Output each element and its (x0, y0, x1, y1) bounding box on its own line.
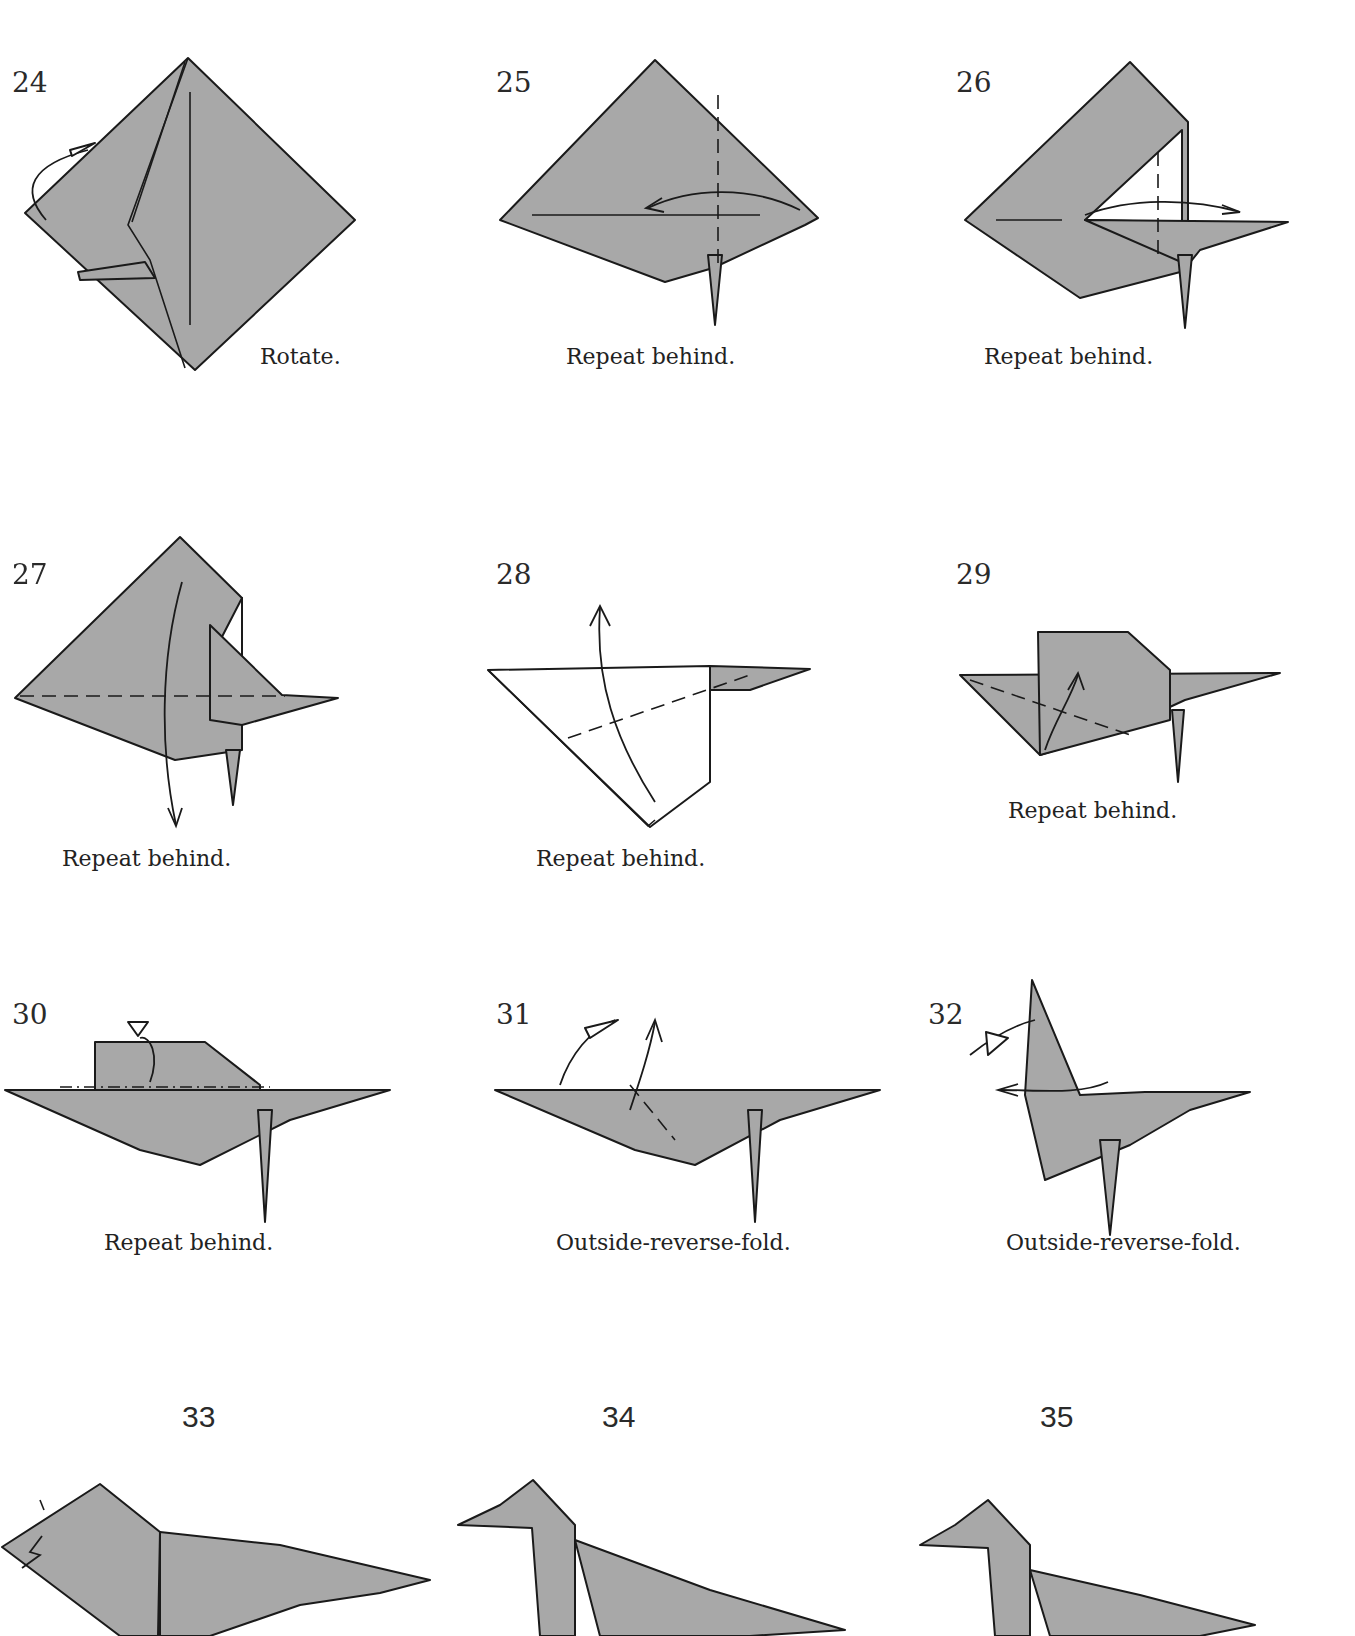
step-24-figure (0, 0, 450, 420)
step-caption: Repeat behind. (62, 846, 231, 871)
step-33-figure (0, 1380, 450, 1636)
step-caption: Repeat behind. (104, 1230, 273, 1255)
step-26: 26 Repeat behind. (900, 0, 1355, 420)
step-number: 30 (12, 998, 48, 1031)
step-caption: Repeat behind. (984, 344, 1153, 369)
step-27-figure (0, 520, 450, 900)
step-28: 28 Repeat behind. (450, 520, 900, 900)
step-29: 29 Repeat behind. (900, 520, 1355, 900)
step-number: 29 (956, 558, 992, 591)
step-30: 30 Repeat behind. (0, 960, 450, 1300)
step-33: 33 (0, 1380, 450, 1636)
step-number: 35 (1040, 1400, 1073, 1434)
step-number: 26 (956, 66, 992, 99)
step-25: 25 Repeat behind. (450, 0, 900, 420)
step-34: 34 (450, 1380, 900, 1636)
step-caption: Repeat behind. (566, 344, 735, 369)
step-number: 27 (12, 558, 48, 591)
step-24: 24 Rotate. (0, 0, 450, 420)
step-caption: Repeat behind. (536, 846, 705, 871)
step-caption: Rotate. (260, 344, 341, 369)
step-caption: Outside-reverse-fold. (1006, 1230, 1241, 1255)
step-number: 25 (496, 66, 532, 99)
step-32: 32 Outside-reverse-fold. (900, 960, 1355, 1300)
step-number: 24 (12, 66, 48, 99)
step-caption: Outside-reverse-fold. (556, 1230, 791, 1255)
step-number: 28 (496, 558, 532, 591)
step-31: 31 Outside-reverse-fold. (450, 960, 900, 1300)
step-number: 32 (928, 998, 964, 1031)
step-35: 35 (900, 1380, 1355, 1636)
step-number: 33 (182, 1400, 215, 1434)
step-27: 27 Repeat behind. (0, 520, 450, 900)
step-number: 31 (496, 998, 532, 1031)
step-35-figure (900, 1380, 1355, 1636)
step-34-figure (450, 1380, 900, 1636)
step-caption: Repeat behind. (1008, 798, 1177, 823)
step-number: 34 (602, 1400, 635, 1434)
